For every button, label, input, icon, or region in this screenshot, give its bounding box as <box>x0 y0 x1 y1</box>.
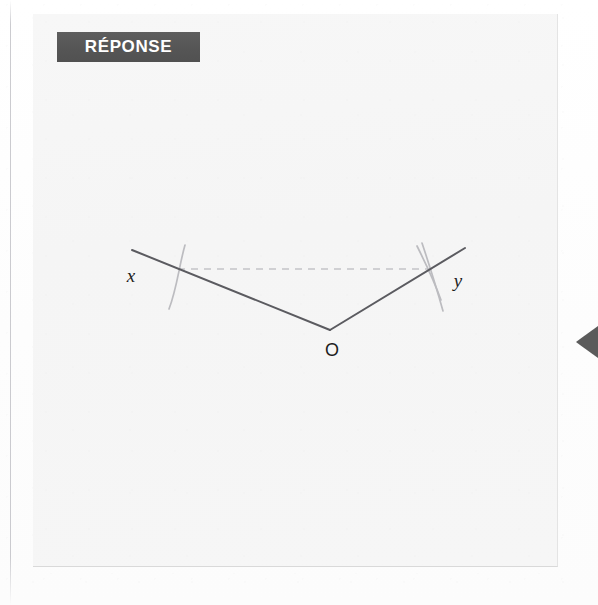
label-o: O <box>325 340 339 360</box>
label-x: x <box>126 265 136 286</box>
chevron-left-icon <box>576 326 598 358</box>
label-y: y <box>452 270 463 291</box>
ray-oy <box>330 248 465 330</box>
geometry-figure: x y O <box>33 14 557 566</box>
left-pointing-chevron-marker <box>576 326 598 358</box>
compass-arc-right-b <box>417 246 441 300</box>
page-gutter-rule <box>10 0 11 605</box>
compass-arc-left <box>169 245 185 309</box>
ray-ox <box>132 250 330 330</box>
